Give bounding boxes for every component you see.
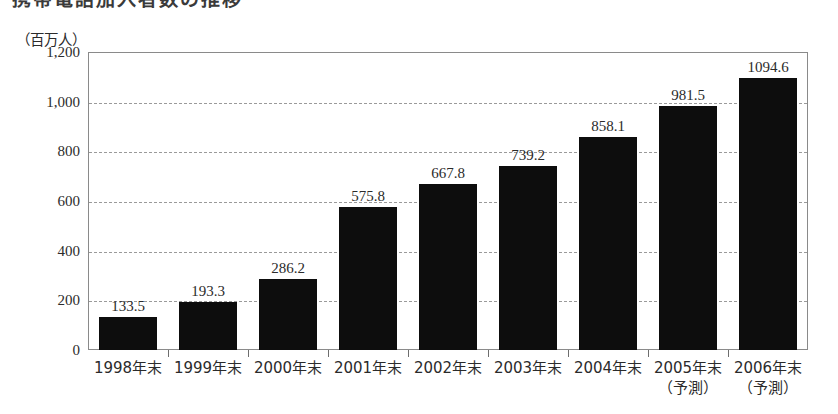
bar bbox=[99, 317, 157, 350]
bar-group: 858.1 bbox=[568, 52, 648, 350]
x-axis-category-label: 2001年末 bbox=[328, 358, 408, 378]
x-axis-category-label-line1: 2002年末 bbox=[408, 358, 488, 378]
x-axis-category-label-line1: 2000年末 bbox=[248, 358, 328, 378]
x-axis-category-label: 1999年末 bbox=[168, 358, 248, 378]
y-axis-tick-label: 200 bbox=[8, 293, 80, 308]
bar bbox=[179, 302, 237, 350]
x-axis-category-label: 2005年末（予測） bbox=[648, 358, 728, 398]
x-axis-category-label: 2004年末 bbox=[568, 358, 648, 378]
bar bbox=[419, 184, 477, 350]
bar bbox=[579, 137, 637, 350]
y-axis-tick-label: 800 bbox=[8, 144, 80, 159]
bar bbox=[259, 279, 317, 350]
y-axis-tick-label: 600 bbox=[8, 194, 80, 209]
x-axis-category-label-line1: 2001年末 bbox=[328, 358, 408, 378]
x-axis-ticks bbox=[88, 350, 808, 357]
bar-group: 286.2 bbox=[248, 52, 328, 350]
x-axis-tick bbox=[248, 350, 249, 357]
x-axis-category-label-line1: 1998年末 bbox=[88, 358, 168, 378]
x-axis-tick bbox=[568, 350, 569, 357]
bar-series: 133.5193.3286.2575.8667.8739.2858.1981.5… bbox=[88, 52, 808, 350]
x-axis-tick-labels: 1998年末1999年末2000年末2001年末2002年末2003年末2004… bbox=[88, 358, 808, 414]
bar-value-label: 667.8 bbox=[431, 165, 465, 181]
bar bbox=[499, 166, 557, 350]
bar-group: 667.8 bbox=[408, 52, 488, 350]
x-axis-tick bbox=[648, 350, 649, 357]
bar-value-label: 193.3 bbox=[191, 283, 225, 299]
x-axis-category-label-line1: 2005年末 bbox=[648, 358, 728, 378]
bar-value-label: 858.1 bbox=[591, 118, 625, 134]
x-axis-category-label-line2: （予測） bbox=[728, 378, 808, 398]
bar-group: 133.5 bbox=[88, 52, 168, 350]
bar-group: 193.3 bbox=[168, 52, 248, 350]
bar-value-label: 286.2 bbox=[271, 260, 305, 276]
bar-value-label: 739.2 bbox=[511, 147, 545, 163]
x-axis-category-label-line2: （予測） bbox=[648, 378, 728, 398]
bar bbox=[339, 207, 397, 350]
x-axis-category-label-line1: 2003年末 bbox=[488, 358, 568, 378]
bar-value-label: 133.5 bbox=[111, 298, 145, 314]
y-axis-tick-label: 0 bbox=[8, 343, 80, 358]
bar bbox=[659, 106, 717, 350]
bar-value-label: 981.5 bbox=[671, 87, 705, 103]
bar-value-label: 575.8 bbox=[351, 188, 385, 204]
bar-group: 981.5 bbox=[648, 52, 728, 350]
x-axis-tick bbox=[168, 350, 169, 357]
y-axis-tick-label: 1,000 bbox=[8, 95, 80, 110]
x-axis-category-label: 2000年末 bbox=[248, 358, 328, 378]
x-axis-category-label: 2002年末 bbox=[408, 358, 488, 378]
x-axis-category-label: 2006年末（予測） bbox=[728, 358, 808, 398]
bar-group: 1094.6 bbox=[728, 52, 808, 350]
y-axis-tick-label: 1,200 bbox=[8, 45, 80, 60]
x-axis-tick bbox=[328, 350, 329, 357]
x-axis-category-label: 2003年末 bbox=[488, 358, 568, 378]
bar-group: 575.8 bbox=[328, 52, 408, 350]
x-axis-category-label: 1998年末 bbox=[88, 358, 168, 378]
x-axis-tick bbox=[728, 350, 729, 357]
bar-value-label: 1094.6 bbox=[747, 59, 788, 75]
x-axis-category-label-line1: 2004年末 bbox=[568, 358, 648, 378]
x-axis-category-label-line1: 2006年末 bbox=[728, 358, 808, 378]
y-axis-tick-label: 400 bbox=[8, 244, 80, 259]
x-axis-category-label-line1: 1999年末 bbox=[168, 358, 248, 378]
bar-group: 739.2 bbox=[488, 52, 568, 350]
x-axis-tick bbox=[408, 350, 409, 357]
x-axis-tick bbox=[488, 350, 489, 357]
bar bbox=[739, 78, 797, 350]
